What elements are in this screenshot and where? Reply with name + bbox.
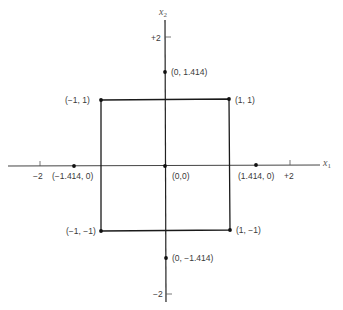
- y-tick-label-pos2: +2: [151, 34, 161, 43]
- x1-axis-label: x1: [323, 158, 331, 170]
- point-label: (1, 1): [235, 96, 255, 105]
- point-dot: [164, 256, 168, 260]
- point-label: (1, −1): [236, 226, 261, 235]
- point-dot: [254, 163, 258, 167]
- point-label: (−1.414, 0): [52, 172, 93, 181]
- point-label: (−1, 1): [65, 96, 90, 105]
- point-dot: [72, 164, 76, 168]
- point-label: (0,0): [172, 172, 189, 181]
- point-dot: [163, 164, 167, 168]
- x-tick-label-neg2: −2: [33, 172, 43, 181]
- point-dot: [163, 70, 167, 74]
- point-label: (0, −1.414): [172, 254, 213, 263]
- point-label: (0, 1.414): [171, 68, 207, 77]
- point-label: (−1, −1): [66, 227, 96, 236]
- point-dot: [99, 229, 103, 233]
- coordinate-diagram: [0, 0, 343, 310]
- x-tick-label-pos2: +2: [284, 172, 294, 181]
- x2-axis-label: x2: [159, 7, 167, 19]
- point-dot: [228, 228, 232, 232]
- point-label: (1.414, 0): [238, 172, 274, 181]
- point-dot: [99, 98, 103, 102]
- point-dot: [227, 97, 231, 101]
- y-tick-label-neg2: −2: [153, 290, 163, 299]
